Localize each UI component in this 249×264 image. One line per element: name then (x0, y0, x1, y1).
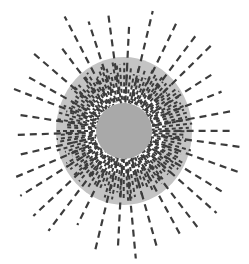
radial-burst-figure (0, 0, 249, 264)
inner-disk-layer (96, 103, 152, 159)
inner-disk (96, 103, 152, 159)
figure-container (0, 0, 249, 264)
